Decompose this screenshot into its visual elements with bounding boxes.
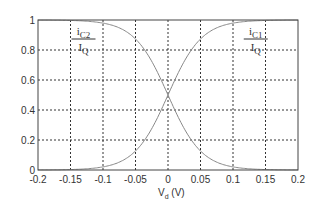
- y-tick-labels: 00.20.40.60.81: [21, 15, 35, 176]
- svg-text:IQ: IQ: [78, 41, 89, 56]
- svg-text:iC1: iC1: [249, 25, 263, 40]
- x-tick-labels: -0.2-0.15-0.1-0.0500.050.10.150.2: [29, 174, 305, 185]
- y-tick-label: 0: [29, 165, 35, 176]
- curve-annotations: iC2IQiC1IQ: [72, 25, 268, 56]
- svg-text:IQ: IQ: [251, 41, 262, 56]
- chart: -0.2-0.15-0.1-0.0500.050.10.150.2 00.20.…: [0, 0, 320, 210]
- y-tick-label: 0.4: [21, 105, 35, 116]
- y-tick-label: 0.8: [21, 45, 35, 56]
- y-tick-label: 1: [29, 15, 35, 26]
- x-tick-label: 0.15: [256, 174, 276, 185]
- data-curves: [38, 20, 298, 170]
- x-tick-label: -0.05: [124, 174, 147, 185]
- x-tick-label: -0.15: [59, 174, 82, 185]
- x-tick-label: 0.1: [226, 174, 240, 185]
- y-tick-label: 0.6: [21, 75, 35, 86]
- svg-text:iC2: iC2: [77, 25, 91, 40]
- fraction-label: iC2IQ: [72, 25, 96, 56]
- fraction-label: iC1IQ: [244, 25, 268, 56]
- x-tick-label: 0.05: [191, 174, 211, 185]
- x-tick-label: -0.1: [94, 174, 112, 185]
- y-tick-label: 0.2: [21, 135, 35, 146]
- x-tick-label: 0: [165, 174, 171, 185]
- x-tick-label: 0.2: [291, 174, 305, 185]
- curve-iC2-IQ: [38, 20, 298, 170]
- x-axis-label: Vd (V): [158, 187, 185, 200]
